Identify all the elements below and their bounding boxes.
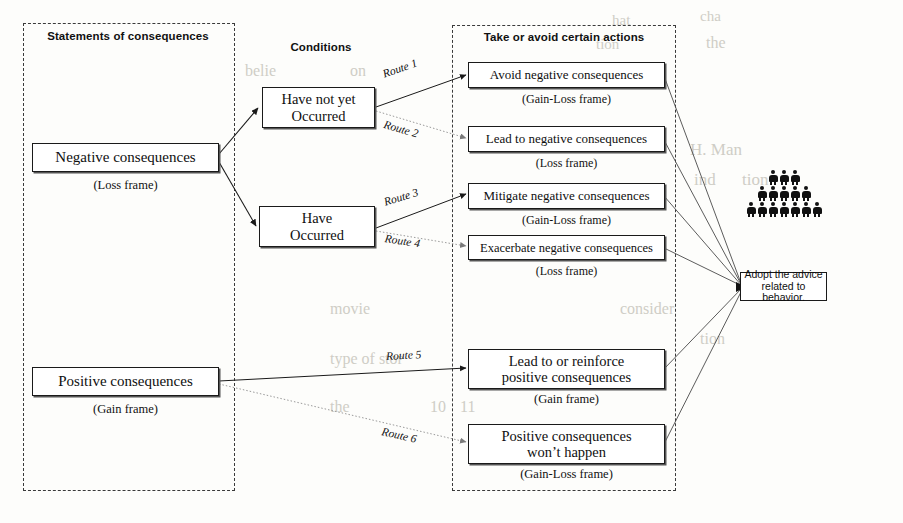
person-icon (791, 170, 800, 185)
node-negative-consequences[interactable]: Negative consequences (32, 143, 219, 172)
group-container-statements (23, 23, 235, 491)
node-label-line1: Lead to or reinforce (509, 353, 625, 369)
bleed-text: belie (245, 62, 276, 80)
diagram-canvas: hatchationthebelieonbotho thH. Manindtio… (0, 0, 903, 523)
person-icon (769, 202, 778, 217)
person-icon (769, 170, 778, 185)
people-row (738, 186, 830, 201)
node-label: Mitigate negative consequences (483, 189, 649, 204)
node-label-line1: Positive consequences (501, 428, 631, 444)
frame-label-action-3: (Gain-Loss frame) (468, 213, 665, 228)
person-icon (802, 202, 811, 217)
people-row (738, 170, 830, 185)
node-label-line2: Occurred (292, 108, 346, 124)
bleed-text: movie (330, 300, 370, 318)
bleed-text: the (330, 398, 350, 416)
route-label-2: Route 2 (382, 118, 419, 139)
node-positive-consequences-wont-happen[interactable]: Positive consequences won’t happen (468, 424, 665, 464)
person-icon (769, 186, 778, 201)
frame-label-negative: (Loss frame) (32, 178, 219, 193)
node-lead-to-negative-consequences[interactable]: Lead to negative consequences (468, 126, 665, 152)
route-label-5: Route 5 (386, 348, 422, 362)
route-label-1: Route 1 (381, 57, 418, 80)
bleed-text: ind (694, 170, 716, 190)
person-icon (780, 170, 789, 185)
frame-label-action-1: (Gain-Loss frame) (468, 92, 665, 107)
person-icon (780, 186, 789, 201)
person-icon (791, 202, 800, 217)
person-icon (802, 186, 811, 201)
node-positive-consequences[interactable]: Positive consequences (32, 367, 219, 396)
people-pyramid-icon (738, 170, 830, 218)
node-avoid-negative-consequences[interactable]: Avoid negative consequences (468, 62, 665, 88)
node-label: Positive consequences (58, 373, 193, 390)
node-exacerbate-negative-consequences[interactable]: Exacerbate negative consequences (468, 235, 665, 260)
node-label-line1: Adopt the advice (744, 269, 822, 281)
node-label: Exacerbate negative consequences (480, 241, 653, 255)
bleed-text: the (706, 34, 726, 52)
bleed-text: tion (700, 330, 725, 348)
frame-label-action-2: (Loss frame) (468, 156, 665, 171)
node-label-line2: Occurred (290, 227, 344, 243)
people-row (738, 202, 830, 217)
node-label-line1: Have (302, 210, 333, 226)
node-label: Lead to negative consequences (486, 132, 647, 147)
node-label-line2: positive consequences (502, 369, 631, 385)
node-adopt-the-advice[interactable]: Adopt the advice related to behavior. (740, 272, 827, 301)
node-have-occurred[interactable]: Have Occurred (259, 206, 375, 247)
person-icon (758, 186, 767, 201)
route-label-4: Route 4 (384, 232, 421, 249)
frame-label-action-5: (Gain frame) (468, 392, 665, 407)
node-label: Negative consequences (55, 149, 195, 166)
person-icon (747, 202, 756, 217)
bleed-text: H. Man (690, 140, 742, 160)
group-title-statements: Statements of consequences (28, 30, 228, 42)
route-label-6: Route 6 (381, 425, 418, 445)
person-icon (780, 202, 789, 217)
frame-label-action-6: (Gain-Loss frame) (468, 467, 665, 482)
person-icon (791, 186, 800, 201)
person-icon (758, 202, 767, 217)
node-lead-to-or-reinforce-positive[interactable]: Lead to or reinforce positive consequenc… (468, 349, 665, 389)
bleed-text: cha (700, 8, 721, 25)
group-title-actions: Take or avoid certain actions (456, 31, 672, 43)
node-label-line2: related to behavior. (741, 281, 826, 305)
route-label-3: Route 3 (382, 186, 419, 208)
frame-label-positive: (Gain frame) (32, 402, 219, 417)
node-label: Avoid negative consequences (490, 68, 644, 83)
bleed-text: 10 (430, 398, 446, 416)
node-mitigate-negative-consequences[interactable]: Mitigate negative consequences (468, 183, 665, 209)
bleed-text: on (350, 62, 366, 80)
node-label-line2: won’t happen (527, 444, 606, 460)
person-icon (813, 202, 822, 217)
group-title-conditions: Conditions (256, 41, 386, 53)
node-have-not-yet-occurred[interactable]: Have not yet Occurred (262, 87, 375, 128)
node-label-line1: Have not yet (281, 91, 355, 107)
frame-label-action-4: (Loss frame) (468, 264, 665, 279)
